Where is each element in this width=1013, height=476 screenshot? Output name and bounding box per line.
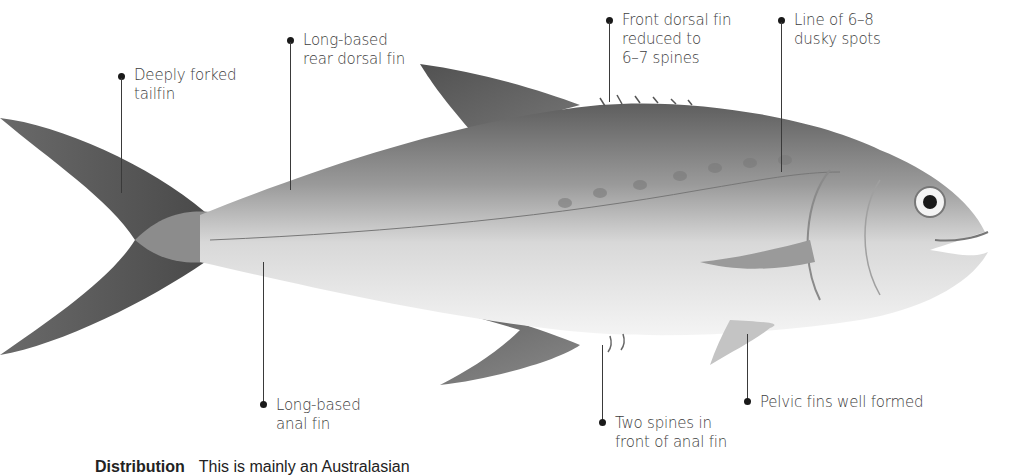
anal-spines	[608, 334, 624, 352]
anal-spines-leader-line	[602, 345, 603, 420]
distribution-heading: Distribution	[95, 458, 185, 475]
eye	[915, 187, 945, 217]
anal-leader-line	[263, 262, 264, 402]
rear-dorsal-label: Long-based rear dorsal fin	[303, 31, 405, 69]
anal-spines-label: Two spines in front of anal fin	[615, 414, 727, 452]
tail-label: Deeply forked tailfin	[134, 66, 236, 104]
front-dorsal-label: Front dorsal fin reduced to 6–7 spines	[622, 11, 731, 68]
front-dorsal-leader-line	[609, 22, 610, 102]
tail-leader-line	[121, 78, 122, 193]
distribution-text: DistributionThis is mainly an Australasi…	[95, 458, 410, 476]
pelvic-label: Pelvic fins well formed	[760, 393, 923, 412]
spots-leader-line	[781, 22, 782, 172]
anal-label-dot	[260, 401, 267, 408]
distribution-body: This is mainly an Australasian	[199, 458, 410, 475]
pelvic-leader-line	[747, 334, 748, 399]
spots-label: Line of 6–8 dusky spots	[794, 11, 881, 49]
fish-body	[200, 103, 988, 335]
anal-spines-label-dot	[599, 419, 606, 426]
anal-label: Long-based anal fin	[276, 396, 360, 434]
rear-dorsal-leader-line	[290, 42, 291, 190]
pelvic-label-dot	[744, 398, 751, 405]
tail-fin	[0, 118, 210, 355]
